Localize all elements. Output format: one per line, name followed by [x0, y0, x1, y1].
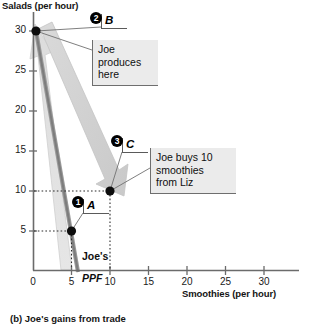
- ppf-label-line1: Joe's: [82, 250, 108, 262]
- y-tick-label-5: 5: [4, 224, 26, 235]
- x-tick-label-25: 25: [216, 276, 236, 287]
- y-tick-label-30: 30: [4, 24, 26, 35]
- figure-panel-b: Salads (per hour): [0, 0, 309, 332]
- y-tick-label-10: 10: [4, 184, 26, 195]
- y-tick-label-25: 25: [4, 64, 26, 75]
- point-label-A: A: [83, 199, 109, 214]
- x-tick-label-15: 15: [139, 276, 159, 287]
- x-axis-title: Smoothies (per hour): [182, 288, 276, 299]
- data-point-C[interactable]: [105, 186, 114, 195]
- x-tick-label-30: 30: [254, 276, 274, 287]
- point-label-C: C: [122, 138, 148, 153]
- ppf-label: Joe's PPF: [82, 240, 108, 284]
- ppf-label-line2: PPF: [82, 272, 102, 284]
- annotation-joe-buys-note: Joe buys 10 smoothies from Liz: [150, 148, 236, 194]
- x-tick-label-0: 0: [23, 276, 43, 287]
- data-point-A[interactable]: [67, 226, 76, 235]
- annotation-joe-produces-here: Joe produces here: [92, 40, 158, 86]
- data-point-B[interactable]: [31, 26, 40, 35]
- x-tick-label-20: 20: [177, 276, 197, 287]
- badge-3: 3: [111, 135, 123, 147]
- badge-1: 1: [72, 196, 84, 208]
- badge-2: 2: [90, 12, 102, 24]
- y-tick-label-20: 20: [4, 104, 26, 115]
- figure-caption: (b) Joe's gains from trade: [10, 313, 126, 324]
- y-tick-label-15: 15: [4, 144, 26, 155]
- point-label-B: B: [101, 14, 127, 29]
- x-tick-label-5: 5: [62, 276, 82, 287]
